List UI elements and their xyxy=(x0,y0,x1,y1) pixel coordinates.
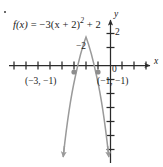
point-left-dot xyxy=(71,69,76,74)
x-vertex-label: −2 xyxy=(76,42,86,52)
parabola-figure: f(x) = −3(x + 2)2 + 2 y x 2 0 −2 (−3, −1… xyxy=(0,0,163,167)
function-equation-label: f(x) = −3(x + 2)2 + 2 xyxy=(13,17,101,30)
marked-points xyxy=(71,69,100,74)
origin-label: 0 xyxy=(112,65,117,75)
x-axis xyxy=(9,62,150,70)
parabola-curve xyxy=(63,37,109,157)
x-axis-label: x xyxy=(154,57,158,67)
point-right-label: (−1, −1) xyxy=(97,77,128,87)
equation-rhs-post: + 2 xyxy=(84,19,101,30)
y-tick-label-2: 2 xyxy=(115,28,120,38)
point-right-dot xyxy=(95,69,100,74)
equation-lhs: f(x) xyxy=(13,19,28,30)
y-axis-label: y xyxy=(114,10,118,20)
point-left-label: (−3, −1) xyxy=(25,77,56,87)
equation-equals: = xyxy=(28,19,39,30)
equation-rhs-pre: −3(x + 2) xyxy=(39,19,80,30)
